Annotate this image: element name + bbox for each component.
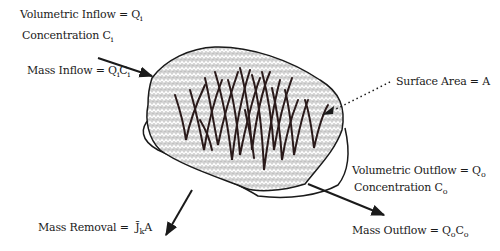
wetland-water-surface	[147, 47, 343, 191]
concentration-out-sub: o	[443, 187, 448, 196]
volumetric-inflow-sub: i	[140, 14, 142, 23]
mass-outflow-label: Mass Outflow = QoCo	[352, 224, 468, 237]
volumetric-outflow-text: Volumetric Outflow = Q	[352, 164, 481, 177]
removal-arrow	[166, 190, 192, 235]
concentration-out-label: Concentration Co	[354, 181, 447, 194]
volumetric-outflow-label: Volumetric Outflow = Qo	[352, 164, 486, 177]
mass-removal-tail: A	[144, 221, 152, 234]
mass-removal-label: Mass Removal = J̄kA	[38, 221, 152, 234]
surface-area-label: Surface Area = A	[396, 75, 490, 88]
volumetric-inflow-text: Volumetric Inflow = Q	[20, 8, 140, 21]
mass-outflow-mid: C	[455, 224, 463, 237]
concentration-in-text: Concentration C	[22, 29, 111, 42]
concentration-out-text: Concentration C	[354, 181, 443, 194]
concentration-in-sub: i	[111, 35, 113, 44]
mass-inflow-sub2: i	[127, 70, 129, 79]
mass-outflow-text: Mass Outflow = Q	[352, 224, 451, 237]
volumetric-outflow-sub: o	[481, 170, 486, 179]
concentration-in-label: Concentration Ci	[22, 29, 113, 42]
mass-inflow-label: Mass Inflow = QiCi	[27, 64, 130, 77]
mass-outflow-sub2: o	[464, 230, 469, 239]
mass-removal-text: Mass Removal =	[38, 221, 132, 234]
surface-area-leader	[334, 82, 390, 110]
surface-area-text: Surface Area = A	[396, 75, 490, 88]
mass-inflow-text: Mass Inflow = Q	[27, 64, 117, 77]
volumetric-inflow-label: Volumetric Inflow = Qi	[20, 8, 142, 21]
